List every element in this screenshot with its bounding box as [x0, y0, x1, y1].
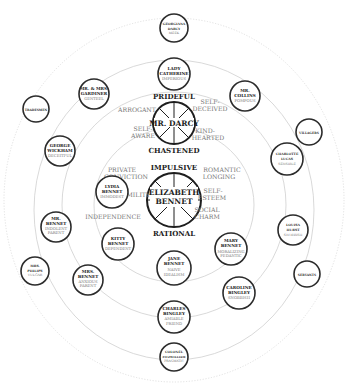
svg-text:IMMODEST: IMMODEST — [100, 194, 124, 199]
svg-text:MEEK: MEEK — [169, 31, 180, 35]
darcy-left-trait-1: SELF- — [134, 125, 153, 132]
svg-text:SERVANTS: SERVANTS — [298, 273, 316, 277]
svg-text:DEPENDENT: DEPENDENT — [105, 246, 132, 251]
svg-text:HURST: HURST — [286, 228, 300, 232]
node-collins[interactable]: MR. COLLINS POMPOUS — [230, 81, 260, 111]
svg-text:BENNET: BENNET — [102, 189, 124, 194]
node-servants[interactable]: SERVANTS — [294, 261, 320, 287]
node-wickham[interactable]: GEORGE WICKHAM DECEITFUL — [45, 136, 75, 166]
elizabeth-left-trait-3: INDEPENDENCE — [85, 213, 141, 220]
svg-text:SENSIBLE: SENSIBLE — [278, 162, 296, 166]
svg-text:BINGLEY: BINGLEY — [228, 290, 251, 295]
elizabeth-right-trait-0: ROMANTIC — [203, 166, 241, 173]
node-mrs-bennet[interactable]: MRS. BENNET ANXIOUS PARENT — [73, 265, 103, 295]
svg-text:LUCAS: LUCAS — [281, 157, 294, 161]
node-charlotte[interactable]: CHARLOTTE LUCAS SENSIBLE — [271, 143, 303, 175]
darcy-left-trait-2: AWARE — [130, 132, 155, 139]
darcy-bottom-label: CHASTENED — [148, 146, 199, 155]
darcy-right-trait-3: HEARTED — [192, 134, 225, 141]
node-charles[interactable]: CHARLES BINGLEY AMIABLE FRIEND — [158, 301, 190, 333]
svg-text:PARENT: PARENT — [48, 230, 65, 235]
svg-text:BENNET: BENNET — [164, 261, 186, 266]
node-lydia[interactable]: LYDIA BENNET IMMODEST — [96, 176, 128, 208]
node-mary[interactable]: MARY BENNET MORALIZING PEDANTIC — [215, 233, 247, 265]
darcy-right-trait-0: SELF- — [201, 98, 220, 105]
svg-text:BENNET: BENNET — [108, 241, 130, 246]
character-map-diagram: MR. DARCY PRIDEFUL CHASTENED ARROGANT SE… — [0, 0, 345, 388]
node-tradesmen[interactable]: TRADESMEN — [23, 96, 49, 122]
node-kitty[interactable]: KITTY BENNET DEPENDENT — [102, 228, 134, 260]
elizabeth-top-label: IMPULSIVE — [151, 163, 197, 172]
svg-text:SNOBBISH: SNOBBISH — [228, 295, 251, 300]
node-philips[interactable]: MRS. PHILIPS VULGAR — [21, 257, 49, 285]
node-lady-catherine[interactable]: LADY CATHERINE IMPERIOUS — [158, 58, 190, 90]
svg-text:VILLAGERS: VILLAGERS — [298, 131, 319, 135]
svg-text:TRADESMEN: TRADESMEN — [25, 108, 48, 112]
darcy-right-trait-1: DECEIVED — [192, 105, 227, 112]
elizabeth-left-trait-0: PRIVATE — [108, 166, 137, 173]
node-mr-bennet[interactable]: MR. BENNET INDOLENT PARENT — [41, 212, 71, 242]
svg-text:MRS.: MRS. — [30, 264, 39, 268]
node-villagers[interactable]: VILLAGERS — [296, 119, 322, 145]
node-jane[interactable]: JANE BENNET NAIVE IDEALISM — [157, 251, 191, 285]
elizabeth-right-trait-5: CHARM — [194, 213, 220, 220]
svg-text:VULGAR: VULGAR — [27, 273, 43, 277]
node-georgiana[interactable]: GEORGIANA DARCY MEEK — [160, 14, 188, 42]
elizabeth-right-trait-1: LONGING — [203, 173, 235, 180]
svg-text:GENTEEL: GENTEEL — [84, 96, 104, 101]
svg-text:LOUISA: LOUISA — [286, 223, 301, 227]
svg-text:FITZWILLIAM: FITZWILLIAM — [162, 355, 186, 359]
svg-text:DARCY: DARCY — [168, 27, 181, 31]
node-caroline[interactable]: CAROLINE BINGLEY SNOBBISH — [223, 277, 255, 309]
elizabeth-name-2: BENNET — [155, 197, 192, 206]
svg-text:PRAGMATIC: PRAGMATIC — [164, 359, 184, 363]
darcy-left-trait-0: ARROGANT — [117, 106, 157, 113]
darcy-right-trait-2: KIND- — [195, 127, 215, 134]
elizabeth-right-trait-4: SOCIAL — [194, 206, 219, 213]
svg-text:SNOBBISH: SNOBBISH — [284, 233, 303, 237]
elizabeth-name-1: ELIZABETH — [149, 188, 200, 197]
svg-text:FRIEND: FRIEND — [166, 321, 182, 326]
svg-text:COLONEL: COLONEL — [165, 350, 184, 354]
svg-text:GEORGIANA: GEORGIANA — [163, 22, 186, 26]
svg-text:CHARLOTTE: CHARLOTTE — [276, 152, 299, 156]
svg-text:POMPOUS: POMPOUS — [234, 98, 255, 103]
svg-text:PEDANTIC: PEDANTIC — [220, 253, 241, 258]
svg-text:DECEITFUL: DECEITFUL — [48, 153, 72, 158]
elizabeth-right-trait-2: SELF- — [204, 187, 223, 194]
svg-text:BINGLEY: BINGLEY — [163, 311, 186, 316]
svg-text:PHILIPS: PHILIPS — [27, 269, 43, 273]
elizabeth-right-trait-3: ESTEEM — [198, 194, 227, 201]
svg-text:BENNET: BENNET — [221, 243, 243, 248]
node-fitzwilliam[interactable]: COLONEL FITZWILLIAM PRAGMATIC — [160, 343, 188, 371]
svg-text:PARENT: PARENT — [80, 283, 97, 288]
svg-text:IDEALISM: IDEALISM — [164, 272, 185, 277]
node-louisa[interactable]: LOUISA HURST SNOBBISH — [278, 215, 308, 245]
node-gardiner[interactable]: MR. & MRS. GARDINER GENTEEL — [79, 79, 109, 109]
svg-text:IMPERIOUS: IMPERIOUS — [162, 76, 186, 81]
darcy-hub[interactable]: MR. DARCY PRIDEFUL CHASTENED ARROGANT SE… — [117, 92, 228, 155]
elizabeth-bottom-label: RATIONAL — [153, 229, 195, 238]
darcy-top-label: PRIDEFUL — [153, 92, 195, 101]
darcy-name: MR. DARCY — [149, 119, 199, 128]
